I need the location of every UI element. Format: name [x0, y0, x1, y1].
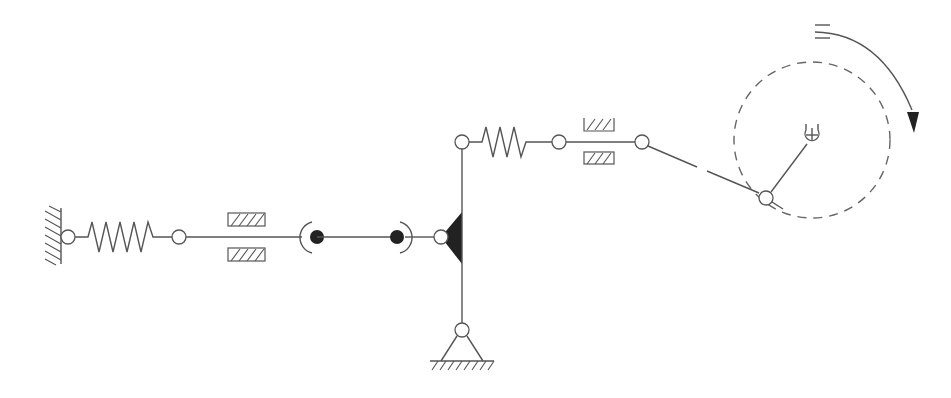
crank-icon — [759, 124, 819, 209]
spring-left-icon — [61, 222, 186, 252]
slide-guide-upper-icon — [584, 118, 614, 164]
fixed-wall-left-icon — [45, 206, 61, 265]
bell-crank-icon — [434, 149, 462, 323]
rotation-arrow-icon — [815, 25, 919, 133]
connecting-rod — [648, 146, 759, 193]
joint-rod-end — [635, 135, 649, 149]
spring-upper-icon — [455, 127, 566, 157]
linkage-diagram — [0, 0, 951, 398]
ground-pivot-icon — [430, 323, 494, 370]
